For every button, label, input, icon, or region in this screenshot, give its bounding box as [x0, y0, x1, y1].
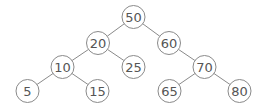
- edge-20-10: [72, 49, 88, 60]
- node-label: 50: [125, 10, 142, 25]
- edge-50-60: [143, 24, 160, 36]
- edge-70-65: [179, 74, 195, 85]
- node-label: 65: [161, 84, 178, 99]
- tree-node-80: 80: [228, 80, 251, 103]
- tree-node-15: 15: [86, 80, 109, 103]
- node-label: 80: [231, 84, 248, 99]
- node-label: 5: [23, 84, 31, 99]
- nodes-layer: 5020601025705156580: [16, 6, 251, 103]
- node-label: 25: [125, 60, 142, 75]
- tree-node-20: 20: [87, 32, 110, 55]
- edge-70-80: [214, 74, 230, 85]
- node-label: 60: [161, 36, 178, 51]
- edge-10-15: [72, 74, 88, 85]
- edge-10-5: [37, 74, 53, 85]
- tree-node-10: 10: [51, 56, 74, 79]
- binary-search-tree-diagram: 5020601025705156580: [0, 0, 261, 111]
- edge-20-25: [108, 49, 124, 60]
- edge-50-20: [107, 24, 124, 36]
- tree-node-50: 50: [122, 6, 145, 29]
- tree-node-65: 65: [158, 80, 181, 103]
- tree-node-60: 60: [158, 32, 181, 55]
- tree-node-70: 70: [193, 56, 216, 79]
- edge-60-70: [179, 49, 195, 60]
- tree-node-25: 25: [122, 56, 145, 79]
- node-label: 10: [54, 60, 71, 75]
- tree-node-5: 5: [16, 80, 39, 103]
- node-label: 20: [90, 36, 107, 51]
- node-label: 70: [196, 60, 213, 75]
- node-label: 15: [89, 84, 106, 99]
